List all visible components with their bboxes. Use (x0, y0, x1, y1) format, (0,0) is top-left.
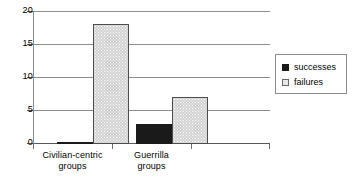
legend-item-label: successes (294, 63, 336, 72)
legend-swatch-icon (282, 64, 289, 71)
legend: successes failures (275, 54, 347, 94)
x-category-label-line: Guerrilla (112, 150, 191, 161)
legend-item-label: failures (294, 78, 323, 87)
bar-guerrilla-successes[interactable] (136, 124, 172, 144)
bar-guerrilla-failures[interactable] (172, 97, 208, 144)
x-category-label-civilian-centric: Civilian-centric groups (33, 150, 112, 172)
plot-area (33, 11, 270, 144)
x-tick-start (33, 144, 34, 149)
x-tick-1 (112, 144, 113, 149)
bar-chart: 20 15 10 5 0 Civilian-centric group (0, 0, 364, 196)
x-category-label-line: Civilian-centric (33, 150, 112, 161)
bar-civilian-successes[interactable] (57, 142, 93, 144)
y-tick-label: 5 (9, 105, 33, 114)
x-tick-2 (191, 144, 192, 149)
legend-item-successes[interactable]: successes (282, 60, 346, 75)
x-tick-end (269, 144, 270, 149)
bar-group-guerrilla (136, 11, 208, 144)
bar-group-civilian-centric (57, 11, 129, 144)
x-category-label-line: groups (33, 161, 112, 172)
x-category-label-guerrilla: Guerrilla groups (112, 150, 191, 172)
y-tick-label: 10 (9, 72, 33, 81)
y-tick-label: 0 (9, 138, 33, 147)
bar-civilian-failures[interactable] (93, 24, 129, 144)
x-category-label-line: groups (112, 161, 191, 172)
legend-swatch-icon (282, 79, 289, 86)
y-tick-label: 15 (9, 39, 33, 48)
y-tick-label: 20 (9, 6, 33, 15)
legend-item-failures[interactable]: failures (282, 75, 346, 90)
